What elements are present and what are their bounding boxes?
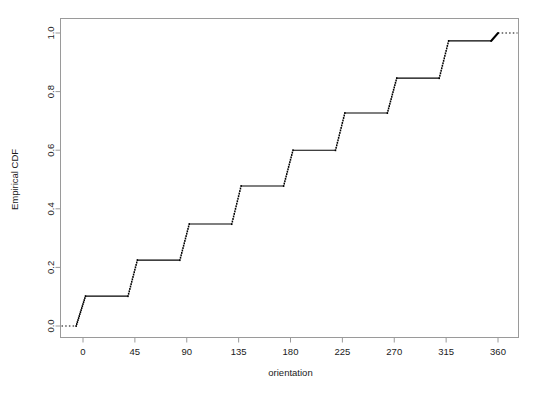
x-axis-title: orientation <box>268 367 312 378</box>
y-tick-label-0.8: 0.8 <box>45 85 56 98</box>
ecdf-jump-180 <box>283 149 294 187</box>
ecdf-jump-315 <box>439 40 450 79</box>
y-tick-label-0.0: 0.0 <box>45 319 56 332</box>
x-tick-label-45: 45 <box>130 346 141 357</box>
x-tick-label-360: 360 <box>490 346 506 357</box>
y-tick-label-1.0: 1.0 <box>45 26 56 39</box>
x-tick-label-270: 270 <box>386 346 402 357</box>
ecdf-series <box>62 32 518 327</box>
x-tick-label-135: 135 <box>231 346 247 357</box>
ecdf-jump-45 <box>127 259 138 297</box>
y-tick-label-0.4: 0.4 <box>45 202 56 215</box>
ecdf-jump-0 <box>75 295 86 327</box>
x-tick-label-0: 0 <box>80 346 85 357</box>
ecdf-chart: 04590135180225270315360 0.00.20.40.60.81… <box>0 0 540 393</box>
y-axis: 0.00.20.40.60.81.0 <box>45 26 61 332</box>
x-tick-label-180: 180 <box>283 346 299 357</box>
x-tick-label-90: 90 <box>181 346 192 357</box>
ecdf-jump-135 <box>231 185 242 225</box>
ecdf-jump-360 <box>490 32 498 42</box>
ecdf-jump-225 <box>335 112 346 151</box>
x-tick-label-315: 315 <box>438 346 454 357</box>
x-axis: 04590135180225270315360 <box>80 338 506 357</box>
y-tick-label-0.2: 0.2 <box>45 261 56 274</box>
y-tick-label-0.6: 0.6 <box>45 144 56 157</box>
ecdf-jump-90 <box>179 223 190 261</box>
ecdf-jump-270 <box>387 77 398 114</box>
y-axis-title: Empirical CDF <box>9 149 20 210</box>
ecdf-plot-container: 04590135180225270315360 0.00.20.40.60.81… <box>0 0 540 393</box>
x-tick-label-225: 225 <box>334 346 350 357</box>
